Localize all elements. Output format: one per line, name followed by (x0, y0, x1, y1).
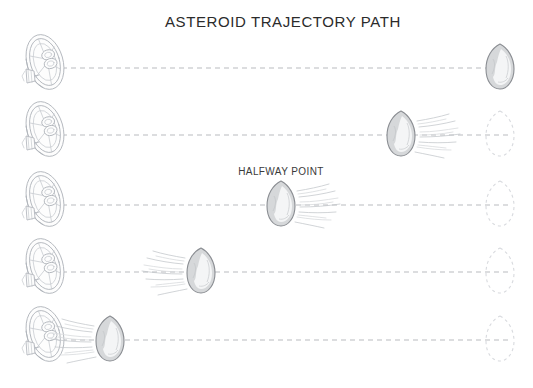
satellite-dish-icon (20, 97, 70, 161)
table-row (20, 97, 514, 161)
table-row: HALFWAY POINT (20, 166, 514, 231)
halfway-point-label: HALFWAY POINT (238, 166, 324, 177)
motion-trail-icon (415, 114, 460, 158)
table-row (20, 302, 514, 366)
asteroid-ghost-icon (486, 316, 514, 361)
asteroid-ghost-icon (486, 248, 514, 293)
asteroid-ghost-icon (486, 111, 514, 156)
asteroid-icon (267, 181, 340, 228)
satellite-dish-icon (20, 30, 70, 94)
table-row (20, 234, 514, 298)
asteroid-ghost-icon (486, 181, 514, 226)
motion-trail-icon (142, 251, 187, 295)
satellite-dish-icon (20, 234, 70, 298)
asteroid-trajectory-diagram: ASTEROID TRAJECTORY PATH (0, 0, 533, 388)
diagram-canvas: ASTEROID TRAJECTORY PATH (0, 0, 533, 388)
satellite-dish-icon (20, 167, 70, 231)
table-row (20, 30, 514, 94)
asteroid-icon (486, 44, 514, 89)
motion-trail-icon (295, 184, 340, 228)
page-title: ASTEROID TRAJECTORY PATH (165, 13, 401, 30)
satellite-dish-icon (20, 302, 70, 366)
